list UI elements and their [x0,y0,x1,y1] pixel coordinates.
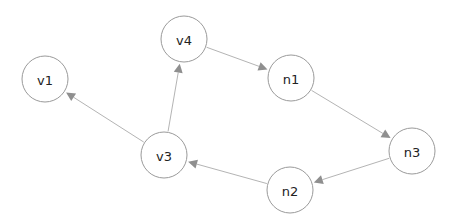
node-label: n3 [404,145,421,160]
node-v4[interactable]: v4 [161,16,207,62]
node-n3[interactable]: n3 [389,128,435,174]
edge-line [168,73,178,132]
edge-v3-to-v4 [168,64,183,132]
edge-n1-to-n3 [312,90,391,138]
node-v1[interactable]: v1 [22,56,68,102]
graph-canvas: v1 v4 n1 v3 n3 n2 [0,0,455,224]
edge-n2-to-v3 [188,160,267,184]
arrowhead-icon [314,175,324,184]
nodes-layer: v1 v4 n1 v3 n3 n2 [22,16,435,213]
arrowhead-icon [174,64,183,74]
node-label: v3 [156,149,172,164]
edge-line [74,97,144,142]
node-label: n2 [282,184,299,199]
edge-line [197,164,267,183]
arrowhead-icon [66,92,76,101]
edges-layer [66,47,391,184]
arrowhead-icon [188,160,198,169]
node-label: v4 [176,33,192,48]
edge-n3-to-n2 [314,158,389,184]
node-v3[interactable]: v3 [141,132,187,178]
edge-v4-to-n1 [207,47,268,70]
edge-line [322,158,389,179]
node-label: v1 [37,73,53,88]
edge-line [207,47,260,66]
edge-v3-to-v1 [66,92,144,142]
node-n1[interactable]: n1 [268,55,314,101]
arrowhead-icon [381,130,391,139]
node-label: n1 [283,72,300,87]
node-n2[interactable]: n2 [267,167,313,213]
edge-line [312,90,383,133]
